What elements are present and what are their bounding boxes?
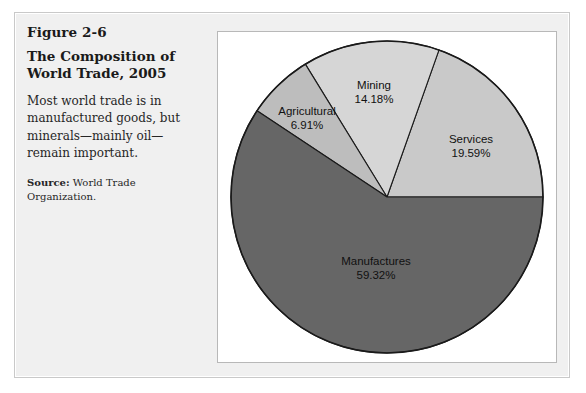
pie-chart: Manufactures 59.32% Services 19.59% Mini… [218, 32, 556, 362]
figure-source-label: Source: [27, 177, 70, 188]
figure-title: The Composition of World Trade, 2005 [27, 48, 187, 84]
figure-number: Figure 2-6 [27, 25, 205, 41]
figure-panel: Figure 2-6 The Composition of World Trad… [14, 12, 570, 378]
figure-source: Source: World Trade Organization. [27, 176, 199, 203]
pie-chart-svg [218, 32, 556, 362]
figure-caption-column: Figure 2-6 The Composition of World Trad… [27, 25, 205, 203]
pie-slice-group [231, 41, 543, 353]
figure-root: Figure 2-6 The Composition of World Trad… [0, 0, 586, 393]
figure-description: Most world trade is in manufactured good… [27, 93, 195, 162]
chart-frame: Manufactures 59.32% Services 19.59% Mini… [217, 31, 557, 363]
